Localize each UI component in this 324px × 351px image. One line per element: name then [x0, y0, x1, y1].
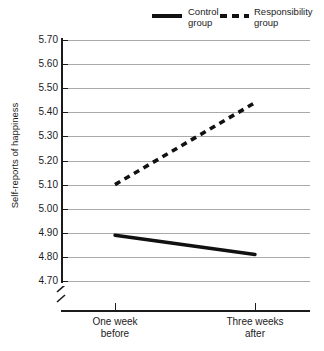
x-tick-line2: after [245, 328, 265, 339]
y-axis-tick-mark [63, 281, 68, 282]
y-axis-tick-label: 5.50 [18, 83, 58, 93]
y-axis-tick-mark [63, 257, 68, 258]
gridline [62, 40, 310, 41]
gridline [62, 257, 310, 258]
solid-line-swatch-icon [150, 9, 184, 23]
x-tick-line1: Three weeks [226, 316, 283, 327]
chart-legend: Controlgroup Responsibilitygroup [150, 6, 324, 38]
y-axis-tick-mark [63, 209, 68, 210]
y-axis-tick-label: 5.30 [18, 131, 58, 141]
legend-label-responsibility-line1: Responsibility [254, 6, 313, 17]
legend-label-control-line2: group [188, 17, 212, 28]
y-axis-tick-label: 4.70 [18, 276, 58, 286]
gridline [62, 233, 310, 234]
x-axis-tick-label: One weekbefore [60, 316, 170, 340]
x-axis-line [61, 310, 310, 312]
y-axis-tick-mark [63, 64, 68, 65]
legend-label-responsibility-group: Responsibilitygroup [254, 6, 313, 28]
y-axis-tick-mark [63, 185, 68, 186]
y-axis-tick-label: 5.20 [18, 156, 58, 166]
gridline [62, 185, 310, 186]
x-axis-tick-mark [255, 303, 256, 311]
y-axis-tick-label: 5.60 [18, 59, 58, 69]
plot-area [62, 38, 310, 283]
gridline [62, 209, 310, 210]
gridline [62, 281, 310, 282]
line-chart: Controlgroup Responsibilitygroup Self-re… [0, 0, 324, 351]
y-axis-tick-label: 4.90 [18, 228, 58, 238]
legend-item-responsibility-group: Responsibilitygroup [218, 6, 313, 28]
legend-item-control-group: Controlgroup [150, 6, 219, 28]
legend-label-responsibility-line2: group [254, 17, 278, 28]
y-axis-tick-mark [63, 161, 68, 162]
x-axis-tick-mark [115, 303, 116, 311]
y-axis-line [61, 38, 63, 283]
x-tick-line2: before [101, 328, 129, 339]
gridline [62, 88, 310, 89]
y-axis-tick-label: 5.40 [18, 107, 58, 117]
x-axis-tick-label: Three weeksafter [200, 316, 310, 340]
y-axis-tick-mark [63, 112, 68, 113]
x-tick-line1: One week [92, 316, 137, 327]
dashed-line-swatch-icon [218, 9, 250, 23]
legend-label-control-line1: Control [188, 6, 219, 17]
y-axis-tick-mark [63, 233, 68, 234]
gridline [62, 136, 310, 137]
legend-label-control-group: Controlgroup [188, 6, 219, 28]
y-axis-tick-mark [63, 136, 68, 137]
gridline [62, 161, 310, 162]
y-axis-tick-label: 5.00 [18, 204, 58, 214]
y-axis-tick-label: 4.80 [18, 252, 58, 262]
y-axis-tick-mark [63, 88, 68, 89]
axis-break-icon [53, 286, 75, 308]
y-axis-tick-label: 5.70 [18, 35, 58, 45]
y-axis-tick-label: 5.10 [18, 180, 58, 190]
gridline [62, 112, 310, 113]
gridline [62, 64, 310, 65]
y-axis-tick-mark [63, 40, 68, 41]
